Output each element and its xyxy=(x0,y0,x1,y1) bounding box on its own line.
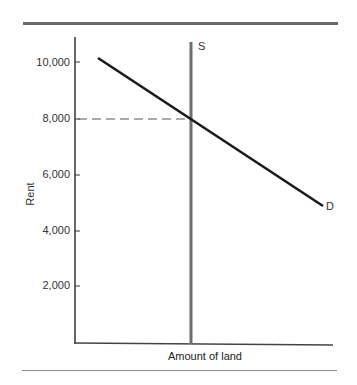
x-axis xyxy=(74,343,333,345)
y-axis-label: Rent xyxy=(24,178,36,210)
y-tick-label-4000: 4,000 xyxy=(20,224,70,236)
bottom-rule xyxy=(22,370,337,371)
supply-curve-label: S xyxy=(198,40,205,52)
x-axis-label: Amount of land xyxy=(150,350,260,362)
demand-line xyxy=(98,58,323,206)
y-tick-label-8000: 8,000 xyxy=(20,112,70,124)
y-tick-label-2000: 2,000 xyxy=(20,279,70,291)
y-tick-label-10000: 10,000 xyxy=(20,56,70,68)
demand-curve-label: D xyxy=(326,200,334,212)
